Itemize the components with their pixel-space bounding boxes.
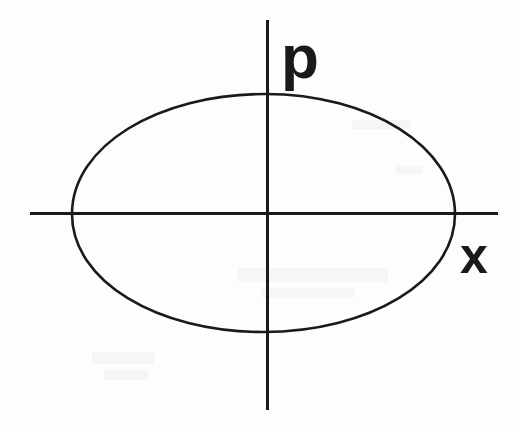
figure-canvas: p x	[0, 0, 520, 426]
scan-artifacts	[92, 120, 422, 380]
phase-space-diagram	[0, 0, 520, 426]
position-axis-label: x	[460, 231, 488, 281]
momentum-axis-label: p	[281, 26, 319, 88]
